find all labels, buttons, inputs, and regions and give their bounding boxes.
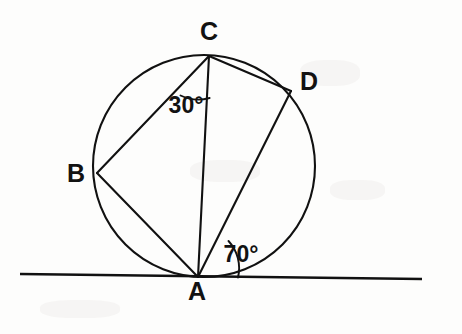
vertex-label-c: C [200,17,218,45]
geometry-canvas: 30° 70° A B C D [0,0,462,334]
vertex-label-b: B [67,159,85,187]
angle-label-30: 30° [169,92,204,118]
vertex-label-d: D [300,67,318,95]
geometry-figure: 30° 70° A B C D [0,0,462,334]
angle-label-70: 70° [224,241,259,267]
chord-c-a [198,56,209,277]
vertex-label-a: A [188,277,206,305]
chord-c-d [209,56,291,91]
